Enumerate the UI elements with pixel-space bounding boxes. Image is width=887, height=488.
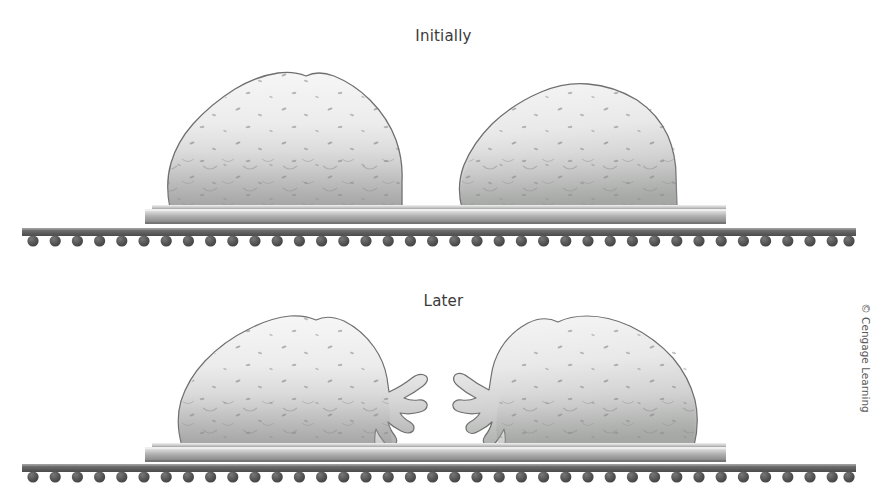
panel-later bbox=[22, 314, 856, 483]
atom-row-initially bbox=[27, 235, 854, 246]
copyright-credit: © Cengage Learning bbox=[860, 291, 872, 425]
diagram-canvas bbox=[0, 0, 887, 488]
particle-initially-left bbox=[165, 70, 410, 210]
rail-later bbox=[22, 464, 856, 472]
atom-row-later bbox=[27, 471, 854, 482]
rail-initially bbox=[22, 228, 856, 236]
particle-later-right bbox=[453, 314, 701, 448]
particle-later-left bbox=[176, 314, 427, 448]
panel-initially bbox=[22, 70, 856, 247]
particle-coalescence-figure: Initially Later bbox=[0, 0, 887, 488]
plate-initially bbox=[145, 205, 726, 224]
particle-initially-right bbox=[458, 80, 683, 210]
plate-later bbox=[145, 443, 726, 462]
